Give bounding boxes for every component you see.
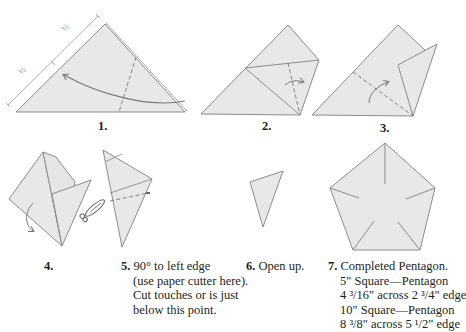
caption-line: Cut touches or is just [121, 288, 248, 303]
caption-line: Completed Pentagon. [341, 259, 449, 273]
scissors-icon [79, 197, 107, 223]
figure-7-label: 7. [328, 259, 337, 273]
figure-6 [250, 171, 283, 227]
figure-2 [201, 25, 319, 115]
figure-5-label: 5. [121, 259, 130, 273]
figure-7-caption: 7. Completed Pentagon. 5" Square—Pentago… [328, 259, 466, 332]
figure-7-pentagon [330, 143, 435, 250]
caption-line: Open up. [259, 259, 305, 273]
caption-line: 5" Square—Pentagon [328, 274, 466, 289]
caption-line: (use paper cutter here). [121, 274, 248, 289]
figure-1-label: 1. [98, 119, 107, 133]
figure-2-label: 2. [262, 119, 271, 133]
figure-6-caption: 6. Open up. [246, 259, 304, 274]
caption-line: 4 ³/16" across 2 ³/4" edge [328, 288, 466, 303]
figure-4-label: 4. [44, 259, 53, 273]
figure-4 [9, 152, 91, 246]
figure-5 [103, 150, 152, 247]
figure-6-label: 6. [246, 259, 255, 273]
caption-line: 10" Square—Pentagon [328, 303, 466, 318]
figure-3-label: 3. [380, 121, 389, 135]
figure-1: ½ ½ [6, 14, 187, 112]
dimension-half-upper: ½ [59, 21, 71, 33]
caption-line: 8 ³/8" across 5 ¹/2" edge [328, 317, 466, 332]
figure-5-caption: 5. 90° to left edge (use paper cutter he… [121, 259, 248, 317]
dimension-half-lower: ½ [16, 64, 28, 76]
caption-line: below this point. [121, 303, 248, 318]
figure-3 [312, 25, 437, 116]
caption-line: 90° to left edge [134, 259, 211, 273]
